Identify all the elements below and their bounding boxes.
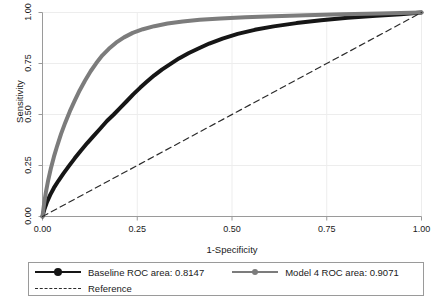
legend-row-primary: Baseline ROC area: 0.8147 Model 4 ROC ar… bbox=[35, 264, 399, 280]
plot-canvas bbox=[0, 0, 434, 300]
y-tick-label: 0.50 bbox=[23, 97, 33, 131]
x-axis-title: 1-Specificity bbox=[42, 244, 422, 255]
legend-key-model4-icon bbox=[232, 266, 278, 278]
x-tick-label: 0.75 bbox=[307, 224, 347, 234]
x-tick-label: 1.00 bbox=[402, 224, 434, 234]
y-tick-label: 0.25 bbox=[23, 148, 33, 182]
x-tick-label: 0.00 bbox=[23, 224, 63, 234]
legend-label-reference: Reference bbox=[88, 283, 132, 294]
legend-row-reference: Reference bbox=[35, 280, 132, 296]
legend-key-reference-icon bbox=[35, 282, 81, 294]
chart-legend: Baseline ROC area: 0.8147 Model 4 ROC ar… bbox=[28, 262, 424, 296]
legend-key-baseline-icon bbox=[35, 266, 81, 278]
roc-chart: Sensitivity 1-Specificity 0.000.250.500.… bbox=[0, 0, 434, 300]
legend-entry-reference[interactable]: Reference bbox=[35, 280, 132, 296]
x-tick-label: 0.25 bbox=[117, 224, 157, 234]
x-tick-label: 0.50 bbox=[212, 224, 252, 234]
y-tick-label: 1.00 bbox=[23, 0, 33, 29]
legend-entry-baseline[interactable]: Baseline ROC area: 0.8147 bbox=[35, 264, 204, 280]
y-tick-label: 0.75 bbox=[23, 46, 33, 80]
legend-label-baseline: Baseline ROC area: 0.8147 bbox=[88, 267, 204, 278]
legend-label-model4: Model 4 ROC area: 0.9071 bbox=[285, 267, 399, 278]
legend-entry-model4[interactable]: Model 4 ROC area: 0.9071 bbox=[232, 264, 399, 280]
